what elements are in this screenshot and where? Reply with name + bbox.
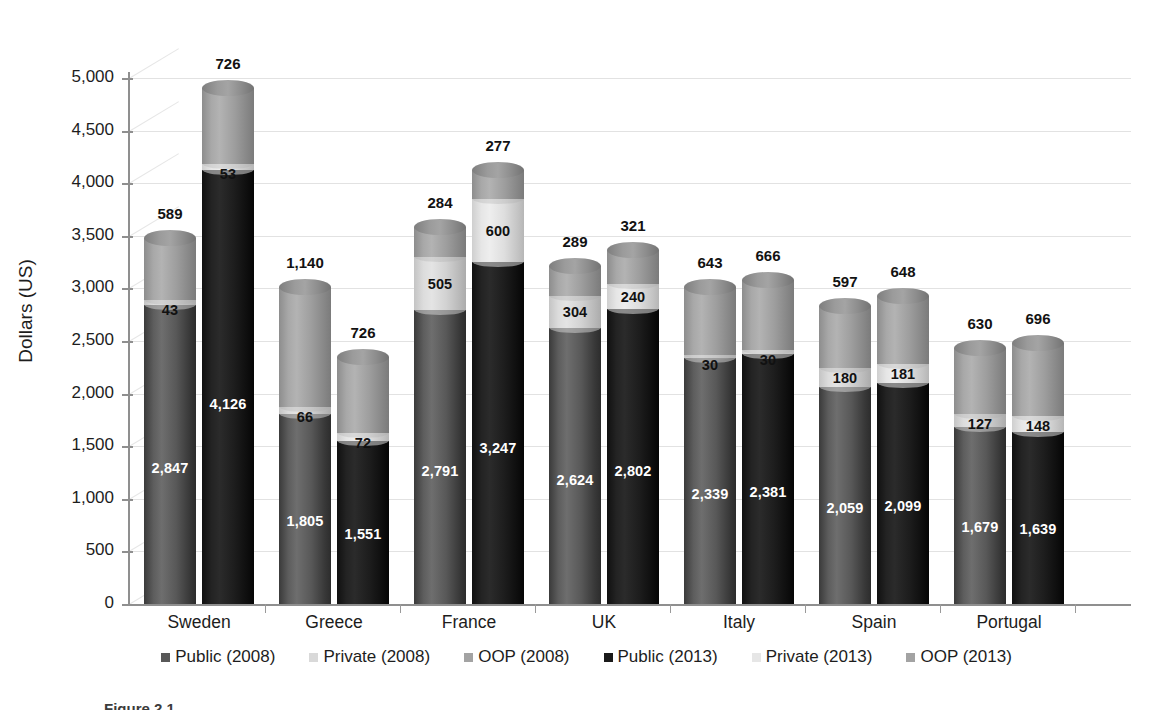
bar-value-label-private: 600 [472, 223, 524, 239]
bar-series-layer: 2,847435895894,126537267261,805661,1401,… [131, 55, 1131, 604]
bar-top-label: 277 [472, 137, 524, 154]
bar-segment-oop-2008: 289 [549, 266, 601, 296]
bar-segment-oop-2008: 589 [144, 238, 196, 300]
bar-segment-oop-2008: 630 [954, 348, 1006, 414]
x-category-label-spain: Spain [805, 612, 943, 633]
bar-value-label-public: 2,099 [877, 498, 929, 514]
bar-segment-private-2008: 127 [954, 414, 1006, 427]
bar-segment-oop-2008: 597 [819, 306, 871, 369]
bar-segment-private-2008: 505 [414, 257, 466, 310]
bar-greece-2008[interactable]: 1,805661,1401,140 [279, 55, 331, 604]
bar-uk-2013[interactable]: 2,802240321321 [607, 55, 659, 604]
bar-portugal-2013[interactable]: 1,639148696696 [1012, 55, 1064, 604]
cylinder-top-cap [607, 242, 659, 258]
legend-item-2[interactable]: OOP (2008) [464, 647, 569, 667]
bar-segment-private-2008: 43 [144, 300, 196, 305]
y-tick-label: 3,000 [52, 277, 114, 297]
cylinder-top-cap [549, 258, 601, 274]
cylinder-top-cap [819, 298, 871, 314]
bar-segment-private-2008: 180 [819, 368, 871, 387]
cylinder-top-cap [954, 340, 1006, 356]
legend-label: Public (2013) [618, 647, 718, 667]
bar-segment-oop-2008: 1,140 [279, 287, 331, 407]
bar-segment-oop-2013: 696 [1012, 343, 1064, 416]
legend-swatch-icon [752, 653, 761, 662]
bar-top-label: 648 [877, 263, 929, 280]
bar-segment-oop-2008: 643 [684, 287, 736, 355]
bar-value-label-public: 1,551 [337, 526, 389, 542]
x-axis-line [128, 604, 1131, 606]
bar-value-label-public: 2,624 [549, 472, 601, 488]
x-category-label-portugal: Portugal [940, 612, 1078, 633]
cylinder-top-cap [877, 288, 929, 304]
bar-france-2013[interactable]: 3,247600277277 [472, 55, 524, 604]
bar-value-label-public: 1,679 [954, 519, 1006, 535]
bar-uk-2008[interactable]: 2,624304289289 [549, 55, 601, 604]
bar-value-label-public: 2,847 [144, 460, 196, 476]
bar-top-label: 630 [954, 315, 1006, 332]
bar-segment-private-2013: 53 [202, 164, 254, 170]
x-category-label-sweden: Sweden [130, 612, 268, 633]
legend-swatch-icon [161, 653, 170, 662]
bar-segment-public-2008: 2,624 [549, 328, 601, 604]
x-category-label-italy: Italy [670, 612, 808, 633]
bar-value-label-public: 2,339 [684, 486, 736, 502]
bar-segment-public-2013: 2,802 [607, 309, 659, 604]
y-tick-label: 4,500 [52, 120, 114, 140]
bar-top-label: 284 [414, 194, 466, 211]
legend-swatch-icon [309, 653, 318, 662]
chart-legend: Public (2008)Private (2008)OOP (2008)Pub… [0, 644, 1173, 670]
legend-item-5[interactable]: OOP (2013) [906, 647, 1011, 667]
bar-value-label-public: 3,247 [472, 440, 524, 456]
bar-segment-oop-2013: 726 [337, 357, 389, 433]
bar-segment-private-2008: 30 [684, 355, 736, 358]
bar-segment-oop-2008: 284 [414, 227, 466, 257]
bar-segment-public-2008: 2,791 [414, 310, 466, 604]
y-axis-title: Dollars (US) [15, 201, 37, 421]
bar-segment-public-2013: 1,639 [1012, 432, 1064, 604]
bar-italy-2013[interactable]: 2,38130666666 [742, 55, 794, 604]
bar-spain-2008[interactable]: 2,059180597597 [819, 55, 871, 604]
bar-segment-private-2013: 181 [877, 364, 929, 383]
legend-item-4[interactable]: Private (2013) [752, 647, 873, 667]
legend-item-3[interactable]: Public (2013) [604, 647, 718, 667]
bar-value-label-public: 1,639 [1012, 521, 1064, 537]
x-category-label-greece: Greece [265, 612, 403, 633]
bar-segment-oop-2013: 277 [472, 170, 524, 199]
bar-value-label-public: 4,126 [202, 396, 254, 412]
legend-item-0[interactable]: Public (2008) [161, 647, 275, 667]
bar-segment-public-2013: 2,381 [742, 354, 794, 604]
bar-portugal-2008[interactable]: 1,679127630630 [954, 55, 1006, 604]
cylinder-top-cap [472, 162, 524, 178]
bar-spain-2013[interactable]: 2,099181648648 [877, 55, 929, 604]
bar-top-label: 289 [549, 233, 601, 250]
bar-segment-public-2013: 2,099 [877, 383, 929, 604]
legend-item-1[interactable]: Private (2008) [309, 647, 430, 667]
bar-greece-2013[interactable]: 1,55172726726 [337, 55, 389, 604]
bar-top-label: 726 [337, 324, 389, 341]
bar-segment-private-2013: 30 [742, 350, 794, 353]
bar-segment-oop-2013: 321 [607, 250, 659, 284]
bar-italy-2008[interactable]: 2,33930643643 [684, 55, 736, 604]
bar-top-label: 1,140 [279, 254, 331, 271]
y-tick-label: 0 [52, 593, 114, 613]
bar-sweden-2008[interactable]: 2,84743589589 [144, 55, 196, 604]
legend-label: OOP (2013) [920, 647, 1011, 667]
bar-sweden-2013[interactable]: 4,12653726726 [202, 55, 254, 604]
cylinder-top-cap [279, 279, 331, 295]
bar-segment-public-2013: 1,551 [337, 441, 389, 604]
bar-segment-public-2008: 1,679 [954, 427, 1006, 604]
bar-segment-oop-2013: 648 [877, 296, 929, 364]
bar-segment-public-2008: 2,059 [819, 387, 871, 604]
legend-label: Private (2013) [766, 647, 873, 667]
bar-segment-private-2013: 148 [1012, 416, 1064, 432]
cylinder-top-cap [1012, 335, 1064, 351]
cylinder-top-cap [202, 80, 254, 96]
bar-top-label: 321 [607, 217, 659, 234]
legend-swatch-icon [604, 653, 613, 662]
bar-segment-public-2008: 2,847 [144, 305, 196, 605]
bar-segment-public-2013: 3,247 [472, 262, 524, 604]
bar-top-label: 726 [202, 55, 254, 72]
bar-france-2008[interactable]: 2,791505284284 [414, 55, 466, 604]
x-category-label-uk: UK [535, 612, 673, 633]
